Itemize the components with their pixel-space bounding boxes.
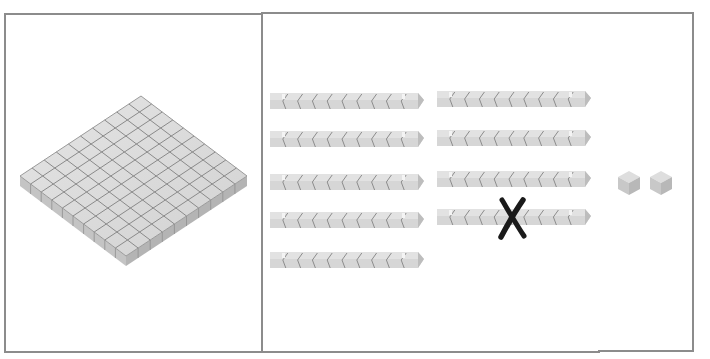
- ten-rod-6: [435, 87, 593, 109]
- ones-panel: 2 ones: [598, 12, 694, 352]
- ten-rod-8: [435, 167, 593, 189]
- ten-rod-2: [268, 127, 426, 149]
- ten-rod-1: [268, 89, 426, 111]
- ten-rod-7: [435, 126, 593, 148]
- unit-cube-2: [648, 169, 674, 197]
- ten-rod-3: [268, 170, 426, 192]
- unit-cube-1: [616, 169, 642, 197]
- cross-out-x-mark: [496, 196, 530, 240]
- ten-rod-5: [268, 248, 426, 270]
- hundred-flat-block: [14, 90, 254, 270]
- ten-rod-4: [268, 208, 426, 230]
